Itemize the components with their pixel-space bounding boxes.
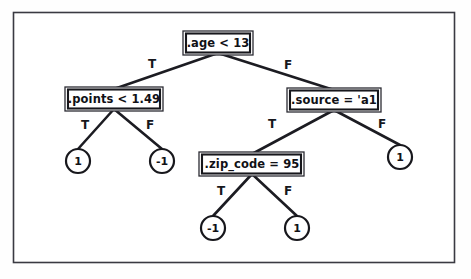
node-source[interactable]: .source = 'a1 <box>287 88 381 112</box>
node-zip-label: .zip_code = 95 <box>205 157 300 172</box>
node-root[interactable]: .age < 13 <box>183 31 253 55</box>
leaf-points-true-label: 1 <box>74 155 82 168</box>
node-points-label: .points < 1.49 <box>68 92 160 106</box>
edge-label-source-false: F <box>378 117 386 131</box>
leaf-points-false[interactable]: -1 <box>150 149 174 173</box>
leaf-points-true[interactable]: 1 <box>66 149 90 173</box>
edge-label-zip-true: T <box>217 184 226 198</box>
node-points[interactable]: .points < 1.49 <box>65 87 163 111</box>
leaf-source-false-label: 1 <box>396 151 404 164</box>
leaf-zip-true[interactable]: -1 <box>201 216 225 240</box>
edge-label-points-true: T <box>81 118 90 132</box>
leaf-zip-true-label: -1 <box>207 222 219 235</box>
leaf-source-false[interactable]: 1 <box>388 145 412 169</box>
edge-label-source-true: T <box>268 117 277 131</box>
leaf-points-false-label: -1 <box>156 155 168 168</box>
edge-label-root-false: F <box>284 58 292 72</box>
leaf-zip-false[interactable]: 1 <box>285 216 309 240</box>
node-source-label: .source = 'a1 <box>291 93 377 107</box>
leaf-zip-false-label: 1 <box>293 222 301 235</box>
edge-label-points-false: F <box>146 118 154 132</box>
decision-tree-diagram: .age < 13 .points < 1.49 .source = 'a1 .… <box>0 0 471 279</box>
edge-label-zip-false: F <box>284 184 292 198</box>
node-root-label: .age < 13 <box>187 36 250 50</box>
diagram-canvas: .age < 13 .points < 1.49 .source = 'a1 .… <box>0 0 471 279</box>
edge-label-root-true: T <box>148 57 157 71</box>
node-zip[interactable]: .zip_code = 95 <box>199 152 304 176</box>
